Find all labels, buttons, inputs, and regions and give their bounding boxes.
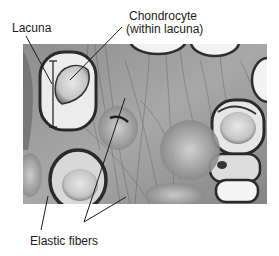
lacuna-main — [40, 52, 96, 130]
chondrocyte-center — [160, 120, 220, 180]
chondrocyte-mid — [98, 106, 138, 150]
label-chondrocyte-line2: (within lacuna) — [126, 23, 203, 36]
label-chondrocyte: Chondrocyte (within lacuna) — [126, 10, 203, 36]
elastic-cartilage-figure: Lacuna Chondrocyte (within lacuna) Elast… — [0, 0, 279, 256]
label-lacuna: Lacuna — [12, 22, 51, 35]
lacuna-right — [212, 100, 264, 154]
lacuna-right-edge — [252, 58, 279, 102]
micrograph — [0, 0, 279, 256]
label-elastic-fibers: Elastic fibers — [30, 235, 98, 248]
